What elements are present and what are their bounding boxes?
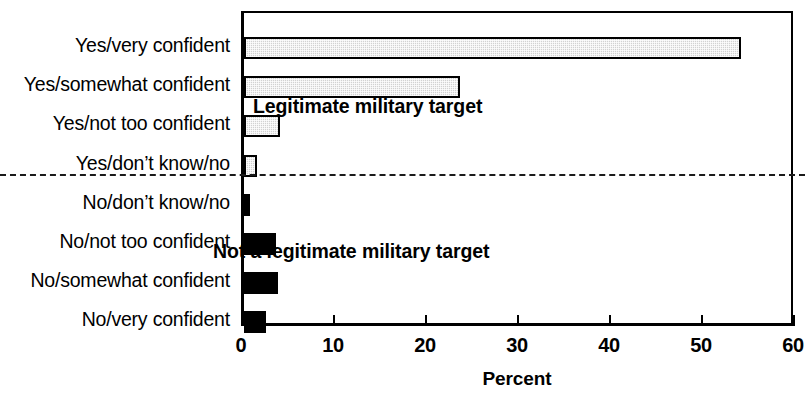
x-axis-tick-40 [609,315,611,326]
bar-row [244,272,796,294]
bar-row [244,194,796,216]
x-axis-tick-label-60: 60 [782,334,804,357]
bar-yes-not-too-confident [244,115,280,137]
y-axis-label-4: No/don’t know/no [83,193,230,213]
y-axis-category-labels: Yes/very confident Yes/somewhat confiden… [0,11,236,326]
x-axis-tick-50 [701,315,703,326]
bar-chart-figure: Yes/very confident Yes/somewhat confiden… [0,0,805,407]
x-axis-tick-20 [425,315,427,326]
x-axis-tick-label-20: 20 [414,334,436,357]
y-axis-label-6: No/somewhat confident [30,271,230,291]
y-axis-label-2: Yes/not too confident [53,114,230,134]
x-axis-tick-label-0: 0 [236,334,247,357]
group-separator-dashed-line [0,174,805,176]
x-axis-tick-10 [333,315,335,326]
x-axis-tick-30 [517,315,519,326]
y-axis-label-1: Yes/somewhat confident [24,75,230,95]
y-axis-label-0: Yes/very confident [75,36,230,56]
plot-area [241,11,793,326]
bar-yes-very-confident [244,37,741,59]
x-axis-tick-label-40: 40 [598,334,620,357]
y-axis-label-5: No/not too confident [59,232,230,252]
x-axis-tick-labels: 0102030405060 [241,334,793,360]
x-axis-tick-label-10: 10 [322,334,344,357]
annotation-legitimate-military-target: Legitimate military target [253,95,482,118]
bar-row [244,37,796,59]
bars-container [244,13,791,323]
bar-no-somewhat-confident [244,272,278,294]
y-axis-label-7: No/very confident [82,310,230,330]
x-axis-tick-0 [241,315,243,326]
x-axis-tick-60 [793,315,795,326]
x-axis-title: Percent [241,368,793,390]
x-axis-tick-label-30: 30 [506,334,528,357]
x-axis-tick-label-50: 50 [690,334,712,357]
bar-no-dont-know-no [244,194,250,216]
bar-row [244,115,796,137]
y-axis-label-3: Yes/don’t know/no [76,154,230,174]
annotation-not-a-legitimate-military-target: Not a legitimate military target [213,240,489,263]
